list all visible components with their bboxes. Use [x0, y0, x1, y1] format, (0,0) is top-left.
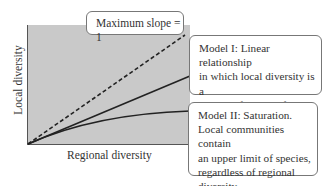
- model2-line-1: Model II: Saturation.: [198, 108, 311, 122]
- model1-line-2: in which local diversity is a: [199, 69, 315, 97]
- plot-area: [27, 25, 190, 144]
- model2-line-4: regardless of regional: [198, 165, 311, 179]
- max-slope-callout: Maximum slope = 1: [86, 11, 184, 35]
- model1-line-1: Model I: Linear relationship: [199, 41, 315, 69]
- model1-callout: Model I: Linear relationship in which lo…: [189, 35, 322, 95]
- y-axis-label: Local diversity: [12, 40, 24, 120]
- model2-callout: Model II: Saturation. Local communities …: [188, 102, 318, 176]
- model2-line-2: Local communities contain: [198, 122, 311, 150]
- model2-line-5: diversity.: [198, 179, 311, 186]
- x-axis-label: Regional diversity: [67, 149, 152, 161]
- model2-line-3: an upper limit of species,: [198, 151, 311, 165]
